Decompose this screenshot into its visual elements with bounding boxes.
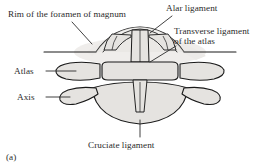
cruciate-ligament-lower-band <box>133 80 147 112</box>
cruciate-ligament-upper-band <box>131 30 149 62</box>
label-axis: Axis <box>17 92 35 102</box>
leader-rim <box>72 22 92 44</box>
label-transverse-line1: Transverse ligament <box>174 26 249 36</box>
atlas-vertebra <box>56 62 224 80</box>
label-cruciate-ligament: Cruciate ligament <box>88 140 154 150</box>
label-transverse-line2: of the atlas <box>174 36 215 46</box>
figure-caption: (a) <box>6 152 16 162</box>
label-alar-ligament: Alar ligament <box>166 3 217 13</box>
label-transverse-ligament-of-atlas: Transverse ligament of the atlas <box>174 26 280 47</box>
label-rim-of-foramen-magnum: Rim of the foramen of magnum <box>8 9 126 19</box>
label-atlas: Atlas <box>14 66 34 76</box>
leader-alar <box>150 16 172 33</box>
anatomy-figure: Rim of the foramen of magnum Alar ligame… <box>0 0 280 166</box>
